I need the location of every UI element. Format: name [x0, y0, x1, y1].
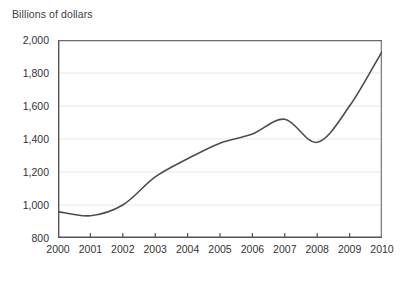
x-axis-tick-label: 2008: [306, 243, 329, 255]
gridlines: [59, 73, 382, 205]
y-axis-tick-labels: 8001,0001,2001,4001,6001,8002,000: [0, 0, 58, 283]
x-axis-tick-label: 2001: [79, 243, 102, 255]
y-axis-tick-label: 1,600: [23, 100, 49, 112]
y-axis-tick-label: 1,200: [23, 166, 49, 178]
plot-area: [58, 40, 382, 238]
line-chart-figure: Billions of dollars 8001,0001,2001,4001,…: [0, 0, 400, 283]
x-axis-tick-labels: 2000200120022003200420052006200720082009…: [0, 243, 400, 263]
y-axis-tick-label: 1,800: [23, 67, 49, 79]
y-axis-tick-label: 2,000: [23, 34, 49, 46]
data-series-line: [58, 52, 382, 216]
x-axis-tick-label: 2006: [241, 243, 264, 255]
x-axis-tick-label: 2003: [144, 243, 167, 255]
x-axis-tick-label: 2010: [370, 243, 393, 255]
x-axis-tick-label: 2002: [111, 243, 134, 255]
x-axis-tick-label: 2009: [338, 243, 361, 255]
x-axis-tick-label: 2007: [273, 243, 296, 255]
plot-svg: [58, 40, 382, 238]
x-axis-tick-label: 2000: [46, 243, 69, 255]
x-axis-tick-label: 2005: [208, 243, 231, 255]
y-axis-tick-label: 1,000: [23, 199, 49, 211]
x-axis-tick-label: 2004: [176, 243, 199, 255]
y-axis-tick-label: 1,400: [23, 133, 49, 145]
